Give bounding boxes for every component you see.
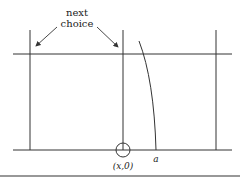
annotation-line1: next [66, 7, 88, 18]
boundary-curve [139, 41, 156, 150]
diagram-canvas: next choice (x,0) a [0, 0, 240, 184]
arrow-left [36, 27, 57, 46]
annotation-line2: choice [61, 18, 94, 29]
curve-label: a [153, 154, 158, 164]
point-label: (x,0) [113, 161, 134, 171]
arrow-right [97, 27, 118, 47]
